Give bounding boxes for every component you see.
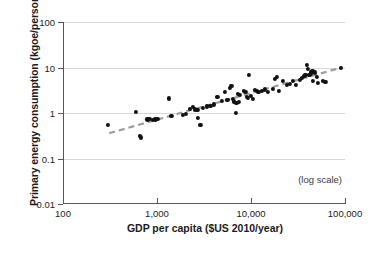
- x-axis-tick-label: 10,000: [236, 208, 265, 219]
- y-axis-tick-label: 10: [44, 62, 55, 73]
- chart-figure: Primary energy consumption (kgoe/person)…: [0, 0, 387, 256]
- y-axis-title: Primary energy consumption (kgoe/person): [28, 6, 40, 206]
- y-axis-tick: [58, 204, 63, 205]
- x-axis-tick-label: 100,000: [328, 208, 362, 219]
- y-axis-tick-label: 1: [50, 108, 55, 119]
- x-axis-tick: [345, 198, 346, 204]
- y-axis-tick-label: 0.01: [37, 199, 56, 210]
- y-axis-tick-label: 100: [39, 17, 55, 28]
- x-axis-tick-label: 100: [55, 208, 71, 219]
- plot-area: 1001010.10.01 1001,00010,000100,000 (log…: [63, 22, 345, 204]
- log-scale-annotation: (log scale): [298, 174, 342, 185]
- x-axis-title: GDP per capita ($US 2010/year): [55, 222, 355, 234]
- x-axis-tick-label: 1,000: [145, 208, 169, 219]
- y-axis-tick-label: 0.1: [42, 153, 55, 164]
